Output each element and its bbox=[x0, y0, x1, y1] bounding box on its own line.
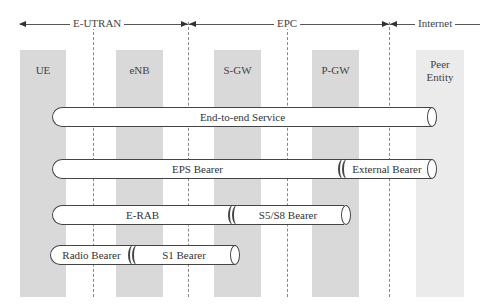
node-label: eNB bbox=[116, 64, 163, 77]
pipe-joint bbox=[232, 205, 242, 225]
bearer-label: S1 Bearer bbox=[132, 249, 236, 261]
pipe-end-cap bbox=[341, 205, 351, 225]
bearer-e-rab: E-RAB bbox=[52, 205, 232, 225]
bearer-external: External Bearer bbox=[342, 159, 432, 179]
bearer-label: Radio Bearer bbox=[51, 249, 132, 261]
arrow-left-icon bbox=[19, 21, 26, 27]
bearer-label: End-to-end Service bbox=[53, 111, 432, 123]
node-label: UE bbox=[20, 64, 66, 77]
arrow-left-icon bbox=[390, 21, 397, 27]
bearer-end-to-end-service: End-to-end Service bbox=[52, 107, 432, 127]
pipe-joint bbox=[342, 159, 352, 179]
domain-label-internet: Internet bbox=[415, 17, 455, 29]
bearer-eps: EPS Bearer bbox=[52, 159, 342, 179]
domain-label-eutran: E-UTRAN bbox=[70, 17, 124, 29]
bearer-radio: Radio Bearer bbox=[50, 245, 132, 265]
bearer-s1: S1 Bearer bbox=[132, 245, 236, 265]
arrow-right-icon bbox=[382, 21, 389, 27]
bearer-label: S5/S8 Bearer bbox=[232, 209, 344, 221]
arrow-right-icon bbox=[181, 21, 188, 27]
pipe-end-cap bbox=[427, 159, 437, 179]
bearer-label: External Bearer bbox=[342, 163, 432, 175]
node-label: Peer Entity bbox=[416, 58, 464, 84]
bearer-label: E-RAB bbox=[53, 209, 232, 221]
node-label: P-GW bbox=[312, 64, 359, 77]
domain-label-epc: EPC bbox=[274, 17, 300, 29]
bearer-label: EPS Bearer bbox=[53, 163, 342, 175]
pipe-joint bbox=[132, 245, 142, 265]
bearer-s5s8: S5/S8 Bearer bbox=[232, 205, 344, 225]
pipe-end-cap bbox=[230, 245, 240, 265]
pipe-end-cap bbox=[427, 107, 437, 127]
node-label: S-GW bbox=[214, 64, 261, 77]
arrow-left-icon bbox=[189, 21, 196, 27]
